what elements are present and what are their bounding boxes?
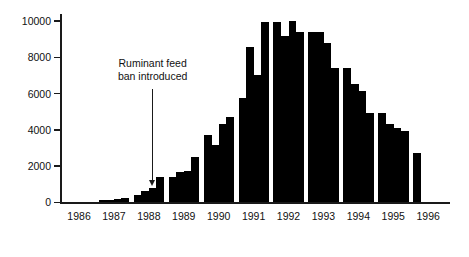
x-tick-label-1995: 1995 <box>382 211 405 222</box>
y-tick-10000 <box>54 20 60 22</box>
bar <box>296 32 304 202</box>
bar <box>226 117 234 202</box>
bse-quarterly-bar-chart: 0200040006000800010000 19861987198819891… <box>0 0 469 257</box>
bar <box>156 177 164 202</box>
x-tick-label-1986: 1986 <box>67 211 90 222</box>
y-tick-label-10000: 10000 <box>22 16 51 27</box>
bar <box>401 131 409 203</box>
annotation-arrow-head-icon <box>149 180 155 186</box>
x-tick-label-1992: 1992 <box>277 211 300 222</box>
y-tick-label-8000: 8000 <box>28 52 51 63</box>
y-tick-0 <box>54 202 60 204</box>
x-tick-label-1996: 1996 <box>416 211 439 222</box>
bar <box>331 68 339 202</box>
x-tick-label-1990: 1990 <box>207 211 230 222</box>
y-tick-2000 <box>54 165 60 167</box>
plot-area: 0200040006000800010000 19861987198819891… <box>60 14 450 204</box>
bar <box>121 198 129 203</box>
annotation-label: Ruminant feed ban introduced <box>118 57 187 83</box>
annotation-line-1: Ruminant feed <box>118 57 187 70</box>
annotation-line-2: ban introduced <box>118 70 187 83</box>
bar <box>413 153 421 203</box>
x-tick-label-1989: 1989 <box>172 211 195 222</box>
annotation-arrow-shaft <box>152 89 153 182</box>
x-tick-label-1988: 1988 <box>137 211 160 222</box>
x-tick-label-1991: 1991 <box>242 211 265 222</box>
y-tick-8000 <box>54 57 60 59</box>
x-tick-label-1994: 1994 <box>347 211 370 222</box>
bar <box>261 22 269 202</box>
x-tick-label-1987: 1987 <box>102 211 125 222</box>
y-tick-label-4000: 4000 <box>28 125 51 136</box>
bar <box>366 113 374 203</box>
bar <box>191 157 199 202</box>
y-tick-label-6000: 6000 <box>28 88 51 99</box>
y-tick-label-2000: 2000 <box>28 161 51 172</box>
y-tick-label-0: 0 <box>45 197 51 208</box>
x-axis-line <box>60 202 450 204</box>
y-tick-4000 <box>54 129 60 131</box>
x-tick-label-1993: 1993 <box>312 211 335 222</box>
y-axis-line <box>60 14 62 204</box>
y-tick-6000 <box>54 93 60 95</box>
